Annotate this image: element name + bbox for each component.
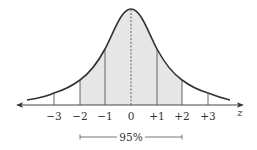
bracket-label-95: 95% bbox=[119, 131, 142, 143]
tick-label: +3 bbox=[200, 110, 215, 122]
tick-label: +1 bbox=[149, 110, 164, 122]
tick-label: −2 bbox=[72, 110, 87, 122]
tick-label: +2 bbox=[174, 110, 189, 122]
tick-label: −1 bbox=[97, 110, 112, 122]
tick-label: −3 bbox=[46, 110, 61, 122]
tick-label: 0 bbox=[128, 110, 135, 122]
normal-curve-diagram: −3 −2 −1 0 +1 +2 +3 z 95% bbox=[0, 0, 257, 150]
axis-variable-label: z bbox=[236, 107, 243, 118]
